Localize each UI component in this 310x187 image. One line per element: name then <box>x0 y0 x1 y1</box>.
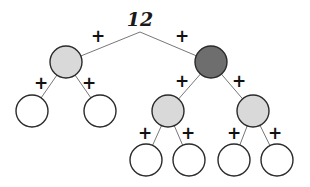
tree-node-leaf <box>130 144 162 176</box>
plus-label: + <box>82 73 96 93</box>
tree-node-light <box>152 95 184 127</box>
plus-label: + <box>175 26 189 46</box>
plus-label: + <box>175 71 189 91</box>
plus-label: + <box>138 123 152 143</box>
tree-node-leaf <box>218 144 250 176</box>
plus-label: + <box>232 71 246 91</box>
tree-node-light <box>50 46 82 78</box>
tree-node-light <box>237 95 269 127</box>
tree-node-leaf <box>173 144 205 176</box>
root-value-label: 12 <box>127 8 153 30</box>
tree-node-leaf <box>84 95 116 127</box>
plus-label: + <box>227 123 241 143</box>
tree-node-leaf <box>261 144 293 176</box>
tree-node-dark <box>195 46 227 78</box>
tree-diagram: ++++++++++ 12 <box>0 0 310 187</box>
plus-label: + <box>34 73 48 93</box>
tree-nodes <box>16 46 293 176</box>
plus-label: + <box>181 123 195 143</box>
tree-node-leaf <box>16 95 48 127</box>
plus-label: + <box>268 123 282 143</box>
plus-label: + <box>91 26 105 46</box>
